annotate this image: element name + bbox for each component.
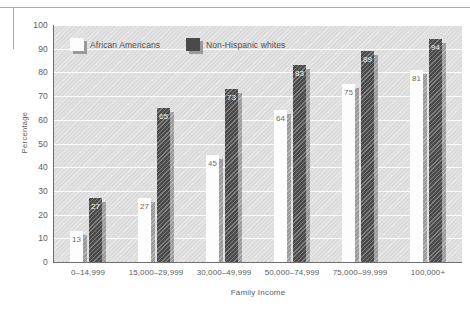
y-tick-label: 80 bbox=[8, 67, 48, 77]
legend-swatch-icon bbox=[70, 38, 84, 51]
y-tick-label: 90 bbox=[8, 44, 48, 54]
x-axis-title: Family Income bbox=[54, 288, 462, 297]
y-tick-label: 0 bbox=[8, 257, 48, 267]
legend-label: African Americans bbox=[90, 40, 160, 50]
y-tick-label: 30 bbox=[8, 186, 48, 196]
legend-item-nhw[interactable]: Non-Hispanic whites bbox=[186, 38, 285, 51]
legend-swatch-body bbox=[70, 38, 84, 51]
y-axis-title: Percentage bbox=[20, 93, 29, 173]
y-tick-label: 100 bbox=[8, 20, 48, 30]
y-tick-label: 10 bbox=[8, 233, 48, 243]
legend-swatch-icon bbox=[186, 38, 200, 51]
legend-item-aa[interactable]: African Americans bbox=[70, 38, 160, 51]
legend-swatch-body bbox=[186, 38, 200, 51]
legend-label: Non-Hispanic whites bbox=[206, 40, 285, 50]
x-tick-label: 100,000+ bbox=[383, 268, 470, 277]
y-tick-label: 20 bbox=[8, 210, 48, 220]
bar-chart: 132727654573648375898194 100908070605040… bbox=[0, 0, 470, 310]
